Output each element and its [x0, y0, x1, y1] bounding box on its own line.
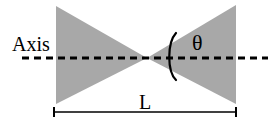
angle-label: θ	[192, 30, 203, 55]
axis-label: Axis	[12, 33, 50, 55]
length-label: L	[139, 91, 151, 113]
figure-container: Axis θ L	[0, 0, 275, 125]
bowtie-diagram: Axis θ L	[0, 0, 275, 125]
